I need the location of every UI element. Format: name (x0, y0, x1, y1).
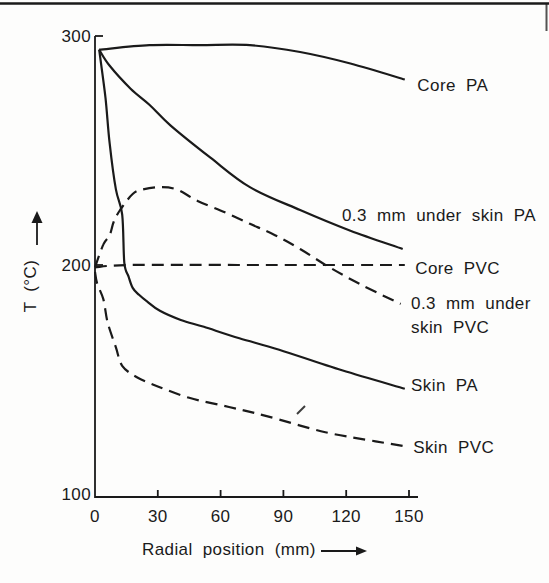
y-tick-label-200: 200 (61, 256, 91, 275)
figure-page: 1002003000306090120150Radial position (m… (0, 0, 549, 583)
series-label-skin-pvc: Skin PVC (413, 438, 494, 457)
y-axis-arrow-head (32, 211, 43, 223)
x-tick-label-90: 90 (274, 507, 294, 526)
series-label-0-3-mm-under-skin-pa: 0.3 mm under skin PA (342, 206, 536, 225)
x-tick-label-0: 0 (90, 507, 100, 526)
x-tick-label-150: 150 (394, 507, 424, 526)
y-tick-label-100: 100 (61, 485, 91, 504)
series-label-0-3-mm-under-skin-pvc-line1: 0.3 mm under (411, 294, 531, 313)
x-tick-label-30: 30 (148, 507, 168, 526)
y-tick-label-300: 300 (61, 27, 91, 46)
series-label-skin-pa: Skin PA (411, 376, 478, 395)
temperature-profile-chart: 1002003000306090120150Radial position (m… (0, 0, 549, 583)
stray-scan-mark (297, 406, 305, 414)
x-axis-title: Radial position (mm) (142, 540, 316, 559)
x-axis-arrow-head (356, 547, 367, 556)
x-tick-label-120: 120 (331, 507, 361, 526)
x-tick-label-60: 60 (211, 507, 231, 526)
y-axis-title: T (°C) (21, 260, 40, 313)
axes (95, 36, 418, 497)
plot-area: 1002003000306090120150Radial position (m… (21, 27, 536, 559)
series-line-core-pa (99, 45, 405, 80)
series-line-core-pvc (95, 265, 405, 267)
series-label-0-3-mm-under-skin-pvc-line2: skin PVC (411, 318, 489, 337)
series-label-core-pvc: Core PVC (415, 259, 500, 278)
series-label-core-pa: Core PA (417, 76, 488, 95)
series-line-0-3-mm-under-skin-pvc (95, 187, 401, 304)
